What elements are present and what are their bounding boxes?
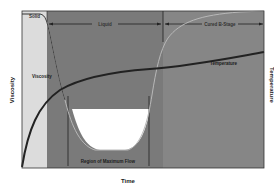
y-axis-right-label: Temperature	[269, 67, 274, 104]
liquid-label: Liquid	[98, 22, 112, 27]
viscosity-curve-label: Viscosity	[32, 74, 52, 79]
solid-label: Solid	[29, 14, 40, 19]
cured-label: Cured B-Stage	[204, 22, 236, 27]
viscosity-temperature-chart: Solid Liquid Cured B-Stage Viscosity Tem…	[0, 0, 274, 192]
region-label: Region of Maximum Flow	[81, 159, 136, 164]
y-axis-left-label: Viscosity	[9, 76, 15, 103]
x-axis-label: Time	[121, 178, 136, 184]
temperature-curve-label: Temperature	[210, 61, 237, 66]
